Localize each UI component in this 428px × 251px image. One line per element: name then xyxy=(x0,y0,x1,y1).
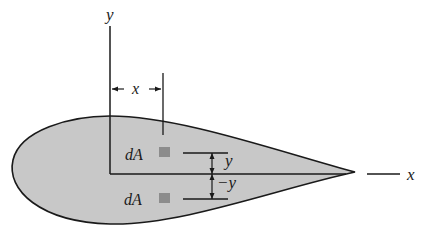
area-element-lower xyxy=(159,193,170,203)
neg-y-dimension-label: −y xyxy=(217,173,236,192)
element-label-lower: dA xyxy=(124,191,142,208)
arrow-right-icon xyxy=(155,87,161,92)
x-axis-label: x xyxy=(406,165,415,184)
element-label-upper: dA xyxy=(125,146,143,163)
y-axis-label: y xyxy=(104,5,114,24)
y-dimension-label: y xyxy=(223,151,233,170)
teardrop-area xyxy=(12,116,355,224)
arrow-left-icon xyxy=(112,87,118,92)
x-dimension-label: x xyxy=(131,80,139,97)
area-element-upper xyxy=(159,147,170,157)
diagram-canvas: y x x dA dA y −y xyxy=(0,0,428,251)
